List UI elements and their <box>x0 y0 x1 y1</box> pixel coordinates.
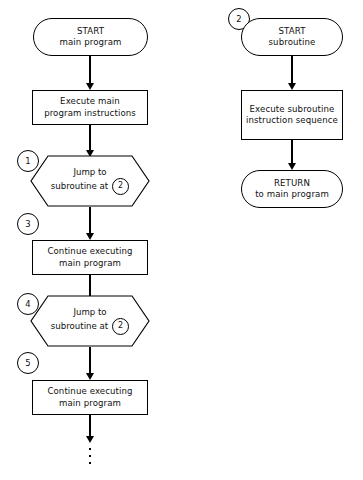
ellipsis-dot <box>89 448 91 450</box>
node-start-subroutine-line1: START <box>278 26 305 37</box>
node-continue2-line2: main program <box>59 398 121 409</box>
node-jump-to-subroutine-1: Jump to subroutine at 2 <box>30 155 150 207</box>
node-execute-main-line1: Execute main <box>60 96 120 107</box>
node-start-subroutine: START subroutine <box>241 18 343 56</box>
connector-label-3: 3 <box>17 213 39 235</box>
flowchart-canvas: START main program Execute main program … <box>0 0 363 480</box>
ellipsis-dot <box>89 462 91 464</box>
node-execute-subroutine-instructions: Execute subroutine instruction sequence <box>241 90 343 140</box>
node-execute-subroutine-line2: instruction sequence <box>246 115 338 126</box>
connector-label-3-text: 3 <box>25 219 30 229</box>
node-execute-main-line2: program instructions <box>44 108 136 119</box>
node-start-main-program: START main program <box>33 18 148 56</box>
node-jump-to-subroutine-2: Jump to subroutine at 2 <box>30 295 150 347</box>
node-continue2-line1: Continue executing <box>47 386 132 397</box>
node-start-main-line2: main program <box>59 37 121 48</box>
node-continue1-line2: main program <box>59 258 121 269</box>
node-continue-executing-1: Continue executing main program <box>32 240 148 275</box>
node-execute-subroutine-line1: Execute subroutine <box>250 104 335 115</box>
node-return-line1: RETURN <box>274 178 310 189</box>
node-return-line2: to main program <box>255 189 329 200</box>
node-start-subroutine-line2: subroutine <box>269 37 316 48</box>
connector-label-5: 5 <box>17 352 39 374</box>
node-execute-main-instructions: Execute main program instructions <box>32 90 148 125</box>
node-return-to-main-program: RETURN to main program <box>241 170 343 208</box>
node-start-main-line1: START <box>77 26 104 37</box>
node-continue1-line1: Continue executing <box>47 246 132 257</box>
connector-label-subroutine-entry-text: 2 <box>236 14 241 24</box>
ellipsis-dot <box>89 455 91 457</box>
flow-continues-ellipsis <box>89 448 91 464</box>
node-continue-executing-2: Continue executing main program <box>32 380 148 415</box>
connector-label-5-text: 5 <box>25 358 30 368</box>
